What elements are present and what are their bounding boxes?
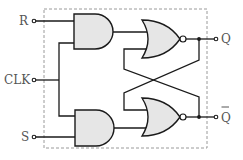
nor-bottom-inversion-bubble: [180, 114, 186, 120]
terminal-s: [32, 135, 36, 139]
terminal-clk: [32, 78, 36, 82]
input-wires: [35, 21, 75, 137]
nor-top-inversion-bubble: [180, 36, 186, 42]
circuit-boundary: [44, 9, 207, 148]
terminal-qbar: [214, 115, 218, 119]
terminal-r: [32, 19, 36, 23]
nor-gate-bottom: [142, 98, 180, 136]
input-label-r: R: [19, 14, 29, 28]
wire-clk-bus: [59, 43, 75, 116]
output-label-qbar: Q: [221, 111, 231, 125]
output-label-q: Q: [221, 32, 231, 46]
input-label-clk: CLK: [4, 73, 31, 87]
junction-qbar: [197, 115, 201, 119]
and-gate-bottom: [75, 110, 114, 146]
junction-q: [197, 37, 201, 41]
and-gate-top: [74, 14, 113, 49]
input-label-s: S: [21, 130, 29, 144]
terminal-q: [214, 37, 218, 41]
nor-gate-top: [142, 20, 180, 58]
rs-flip-flop-diagram: R CLK S Q Q: [0, 0, 243, 160]
